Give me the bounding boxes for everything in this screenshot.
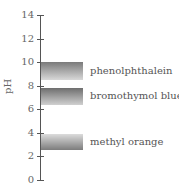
tick-2 [37, 156, 44, 157]
tick-label-12: 12 [6, 34, 34, 44]
tick-label-4: 4 [6, 128, 34, 138]
tick-8 [37, 86, 44, 87]
tick-label-0: 0 [6, 175, 34, 185]
tick-label-10: 10 [6, 57, 34, 67]
tick-6 [37, 109, 44, 110]
band-phenolphthalein [41, 62, 83, 80]
tick-14 [37, 15, 44, 16]
tick-0 [37, 180, 44, 181]
tick-label-14: 14 [6, 10, 34, 20]
label-bromothymol-blue: bromothymol blue [90, 90, 179, 102]
tick-label-6: 6 [6, 104, 34, 114]
tick-12 [37, 39, 44, 40]
label-phenolphthalein: phenolphthalein [90, 65, 172, 77]
band-bromothymol-blue [41, 88, 83, 105]
label-methyl-orange: methyl orange [90, 136, 163, 148]
tick-label-8: 8 [6, 81, 34, 91]
band-methyl-orange [41, 134, 83, 150]
tick-label-2: 2 [6, 151, 34, 161]
